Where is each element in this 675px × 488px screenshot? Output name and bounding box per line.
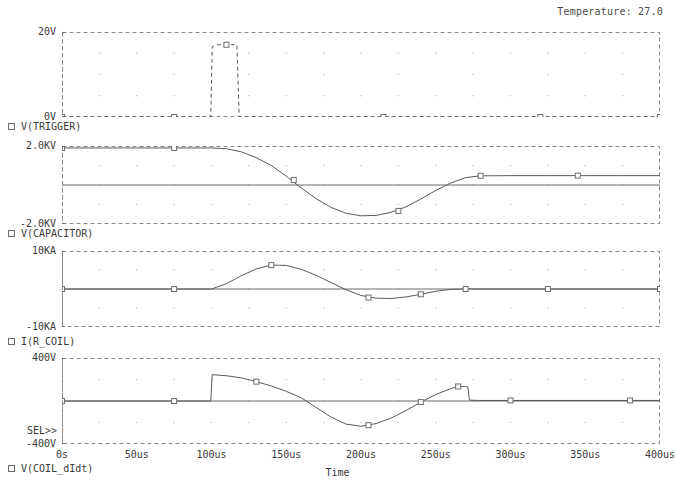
trace-sample-marker	[172, 399, 177, 404]
plot-panel-coil-current[interactable]: 10KA -10KA	[62, 251, 660, 327]
x-tick-label: 200us	[346, 449, 376, 460]
waveform-trace	[62, 148, 660, 216]
legend-capacitor[interactable]: V(CAPACITOR)	[8, 228, 93, 239]
trace-sample-marker	[545, 287, 550, 292]
trace-sample-marker	[478, 173, 483, 178]
trace-sample-marker	[291, 177, 296, 182]
trace-sample-marker	[224, 42, 229, 47]
x-axis-title: Time	[0, 467, 675, 478]
trace-sample-marker	[508, 398, 513, 403]
plot-panel-capacitor[interactable]: 2.0KV -2.0KV	[62, 146, 660, 224]
x-tick-label: 250us	[421, 449, 451, 460]
waveform-canvas	[62, 358, 660, 444]
waveform-canvas	[62, 146, 660, 224]
trace-sample-marker	[456, 384, 461, 389]
legend-label-capacitor: V(CAPACITOR)	[21, 228, 93, 239]
trace-sample-marker	[381, 115, 386, 118]
legend-label-coil-current: I(R_COIL)	[21, 336, 75, 347]
legend-trigger[interactable]: V(TRIGGER)	[8, 121, 81, 132]
selected-panel-marker: SEL>>	[27, 425, 57, 436]
square-marker-icon	[8, 338, 15, 345]
y-axis-bottom-label-coil-didt: -400V	[26, 439, 56, 449]
trace-sample-marker	[366, 295, 371, 300]
trace-sample-marker	[575, 173, 580, 178]
y-axis-top-label-capacitor: 2.0KV	[26, 141, 56, 151]
waveform-trace	[62, 45, 660, 117]
temperature-label: Temperature: 27.0	[557, 6, 663, 17]
y-axis-top-label-trigger: 20V	[38, 27, 56, 37]
plot-frame-capacitor	[62, 146, 660, 224]
plot-panel-trigger[interactable]: 20V 0V	[62, 32, 660, 117]
trace-sample-marker	[658, 115, 661, 118]
waveform-canvas	[62, 251, 660, 327]
trace-sample-marker	[538, 115, 543, 118]
trace-sample-marker	[418, 292, 423, 297]
x-tick-label: 50us	[125, 449, 149, 460]
plot-frame-coil-current	[62, 251, 660, 327]
plot-frame-coil-didt	[62, 358, 660, 444]
x-tick-label: 300us	[495, 449, 525, 460]
trace-sample-marker	[628, 398, 633, 403]
waveform-trace	[62, 375, 660, 427]
trace-sample-marker	[269, 263, 274, 268]
trace-sample-marker	[172, 115, 177, 118]
trace-sample-marker	[172, 146, 177, 150]
x-tick-label: 350us	[570, 449, 600, 460]
x-tick-label: 150us	[271, 449, 301, 460]
trace-sample-marker	[254, 379, 259, 384]
trace-sample-marker	[172, 287, 177, 292]
plot-panel-coil-didt[interactable]: 400V -400V SEL>>	[62, 358, 660, 444]
x-tick-label: 400us	[645, 449, 675, 460]
trace-sample-marker	[366, 423, 371, 428]
trace-sample-marker	[396, 208, 401, 213]
legend-label-trigger: V(TRIGGER)	[21, 121, 81, 132]
trace-sample-marker	[418, 400, 423, 405]
legend-coil-current[interactable]: I(R_COIL)	[8, 336, 75, 347]
plot-frame-trigger	[62, 32, 660, 117]
square-marker-icon	[8, 123, 15, 130]
trace-sample-marker	[463, 287, 468, 292]
square-marker-icon	[8, 230, 15, 237]
x-tick-label: 0s	[56, 449, 68, 460]
y-axis-top-label-coil-didt: 400V	[32, 353, 56, 363]
y-axis-top-label-coil-current: 10KA	[32, 246, 56, 256]
probe-plot-window: Temperature: 27.0 20V 0V V(TRIGGER) 2.0K…	[0, 0, 675, 488]
trace-sample-marker	[658, 287, 661, 292]
y-axis-bottom-label-coil-current: -10KA	[26, 322, 56, 332]
x-axis-ticks: 0s50us100us150us200us250us300us350us400u…	[62, 449, 660, 463]
waveform-canvas	[62, 32, 660, 117]
x-tick-label: 100us	[196, 449, 226, 460]
